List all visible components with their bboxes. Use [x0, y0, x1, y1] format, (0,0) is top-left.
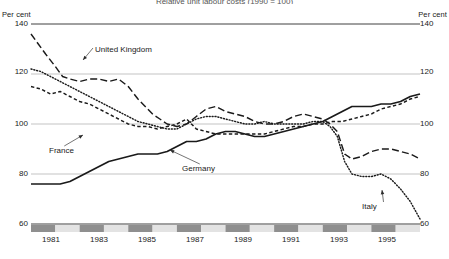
chart-plot-svg — [0, 0, 449, 259]
chart-container: Relative unit labour costs (1990 = 100) … — [0, 0, 449, 259]
